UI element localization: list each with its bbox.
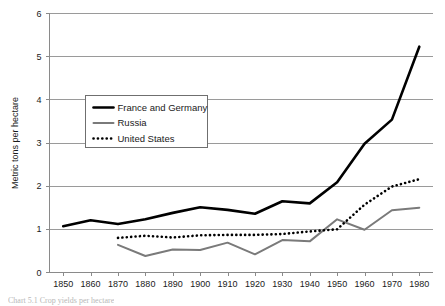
x-tick-label-1950: 1950	[327, 279, 347, 289]
y-tick-label-0: 0	[36, 268, 41, 278]
x-tick-label-1930: 1930	[272, 279, 292, 289]
x-tick-label-1890: 1890	[163, 279, 183, 289]
x-tick-label-1920: 1920	[245, 279, 265, 289]
x-tick-label-1940: 1940	[300, 279, 320, 289]
figure-caption: Chart 5.1 Crop yields per hectare	[8, 296, 114, 306]
data-series-group	[63, 47, 419, 256]
x-tick-label-1970: 1970	[382, 279, 402, 289]
chart-legend: France and GermanyRussiaUnited States	[86, 96, 208, 148]
legend-label-france-and-germany: France and Germany	[118, 102, 208, 113]
y-tick-label-4: 4	[36, 95, 41, 105]
x-tick-label-1960: 1960	[355, 279, 375, 289]
x-tick-label-1850: 1850	[53, 279, 73, 289]
y-axis-title: Metric tons per hectare	[10, 97, 20, 189]
x-tick-label-1980: 1980	[409, 279, 429, 289]
x-tick-label-1880: 1880	[135, 279, 155, 289]
y-tick-label-2: 2	[36, 181, 41, 191]
legend-label-russia: Russia	[118, 117, 148, 128]
legend-label-united-states: United States	[118, 133, 175, 144]
x-tick-label-1900: 1900	[190, 279, 210, 289]
y-tick-label-5: 5	[36, 52, 41, 62]
x-axis-tick-labels: 1850186018701880189019001910192019301940…	[53, 279, 429, 289]
x-tick-label-1860: 1860	[81, 279, 101, 289]
y-tick-label-6: 6	[36, 9, 41, 19]
y-tick-label-1: 1	[36, 224, 41, 234]
y-tick-label-3: 3	[36, 138, 41, 148]
x-tick-label-1870: 1870	[108, 279, 128, 289]
x-tick-label-1910: 1910	[218, 279, 238, 289]
y-axis-tick-labels: 0123456	[36, 9, 41, 278]
y-axis-title-text: Metric tons per hectare	[10, 97, 20, 189]
